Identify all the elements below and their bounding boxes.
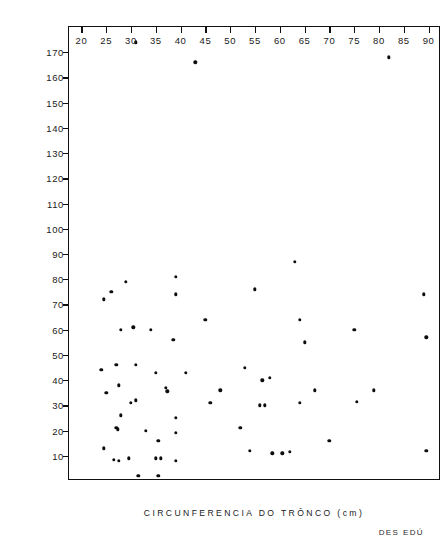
- data-point: [248, 449, 251, 452]
- credit-label: DES EDÚ: [379, 528, 424, 537]
- data-point: [313, 388, 316, 391]
- data-points-layer: [69, 27, 439, 479]
- y-tick-label: 40: [52, 375, 64, 386]
- data-point: [119, 414, 122, 417]
- x-tick-mark: [329, 27, 330, 33]
- data-point: [154, 371, 157, 374]
- y-tick-label: 30: [52, 400, 64, 411]
- data-point: [166, 390, 169, 393]
- data-point: [104, 391, 107, 394]
- plot-area: 1020304050607080901001101201301401501601…: [68, 26, 440, 480]
- data-point: [117, 459, 120, 462]
- data-point: [114, 426, 117, 429]
- data-point: [238, 426, 241, 429]
- data-point: [258, 404, 261, 407]
- data-point: [261, 378, 264, 381]
- data-point: [124, 280, 127, 283]
- data-point: [157, 474, 160, 477]
- data-point: [149, 328, 152, 331]
- x-tick-label: 90: [423, 35, 435, 46]
- data-point: [328, 439, 331, 442]
- y-tick-label: 60: [52, 324, 64, 335]
- x-tick-label: 50: [224, 35, 236, 46]
- data-point: [184, 371, 187, 374]
- data-point: [352, 328, 355, 331]
- x-tick-label: 45: [200, 35, 212, 46]
- data-point: [134, 399, 137, 402]
- data-point: [100, 368, 103, 371]
- data-point: [137, 474, 140, 477]
- x-tick-mark: [305, 27, 306, 33]
- data-point: [144, 429, 147, 432]
- data-point: [288, 450, 291, 453]
- y-tick-label: 120: [46, 173, 64, 184]
- data-point: [116, 428, 119, 431]
- data-point: [129, 401, 132, 404]
- y-tick-label: 160: [46, 72, 64, 83]
- data-point: [117, 383, 120, 386]
- x-tick-mark: [379, 27, 380, 33]
- x-tick-label: 80: [373, 35, 385, 46]
- data-point: [293, 260, 296, 263]
- data-point: [372, 388, 375, 391]
- x-tick-label: 85: [398, 35, 410, 46]
- x-tick-mark: [81, 27, 82, 33]
- x-tick-label: 65: [299, 35, 311, 46]
- x-tick-mark: [181, 27, 182, 33]
- data-point: [154, 457, 157, 460]
- data-point: [422, 293, 425, 296]
- data-point: [102, 447, 105, 450]
- data-point: [174, 275, 177, 278]
- x-tick-label: 35: [150, 35, 162, 46]
- data-point: [174, 293, 177, 296]
- y-tick-label: 150: [46, 97, 64, 108]
- x-tick-mark: [230, 27, 231, 33]
- y-tick-label: 20: [52, 425, 64, 436]
- x-tick-label: 40: [175, 35, 187, 46]
- y-tick-label: 140: [46, 122, 64, 133]
- y-tick-label: 70: [52, 299, 64, 310]
- x-tick-mark: [404, 27, 405, 33]
- data-point: [424, 449, 427, 452]
- x-tick-mark: [156, 27, 157, 33]
- y-tick-label: 50: [52, 349, 64, 360]
- x-tick-label: 75: [348, 35, 360, 46]
- data-point: [243, 366, 246, 369]
- data-point: [109, 290, 112, 293]
- x-tick-mark: [255, 27, 256, 33]
- x-tick-label: 60: [274, 35, 286, 46]
- data-point: [174, 431, 177, 434]
- data-point: [303, 341, 306, 344]
- data-point: [157, 439, 160, 442]
- x-tick-mark: [205, 27, 206, 33]
- data-point: [119, 328, 122, 331]
- x-tick-mark: [280, 27, 281, 33]
- data-point: [112, 458, 115, 461]
- data-point: [298, 401, 301, 404]
- data-point: [114, 363, 117, 366]
- data-point: [271, 452, 274, 455]
- data-point: [281, 452, 284, 455]
- x-tick-label: 25: [100, 35, 112, 46]
- data-point: [159, 457, 162, 460]
- data-point: [263, 404, 266, 407]
- data-point: [132, 325, 135, 328]
- y-tick-label: 10: [52, 450, 64, 461]
- y-tick-label: 110: [47, 198, 64, 209]
- x-tick-mark: [131, 27, 132, 33]
- data-point: [253, 288, 256, 291]
- x-tick-label: 30: [125, 35, 137, 46]
- x-tick-mark: [429, 27, 430, 33]
- x-tick-mark: [106, 27, 107, 33]
- scatter-plot-figure: 1020304050607080901001101201301401501601…: [0, 0, 448, 545]
- data-point: [134, 363, 137, 366]
- data-point: [219, 388, 222, 391]
- data-point: [268, 376, 271, 379]
- y-tick-label: 100: [46, 223, 64, 234]
- x-tick-label: 70: [324, 35, 336, 46]
- y-axis-title: INCREMENTO 15 AÑOS (cm): [14, 0, 32, 44]
- data-point: [174, 459, 177, 462]
- data-point: [204, 318, 207, 321]
- data-point: [209, 401, 212, 404]
- y-tick-label: 90: [52, 249, 64, 260]
